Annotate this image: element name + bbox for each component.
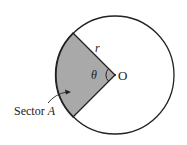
angle-label: θ [91,68,97,82]
sector-label-variable: A [47,104,56,118]
sector-label-text: Sector [14,104,48,118]
sector-diagram: O r θ Sector A [0,0,187,145]
sector-label: Sector A [14,104,56,118]
center-label: O [118,68,127,83]
radius-label: r [95,41,100,55]
center-point [114,74,116,76]
